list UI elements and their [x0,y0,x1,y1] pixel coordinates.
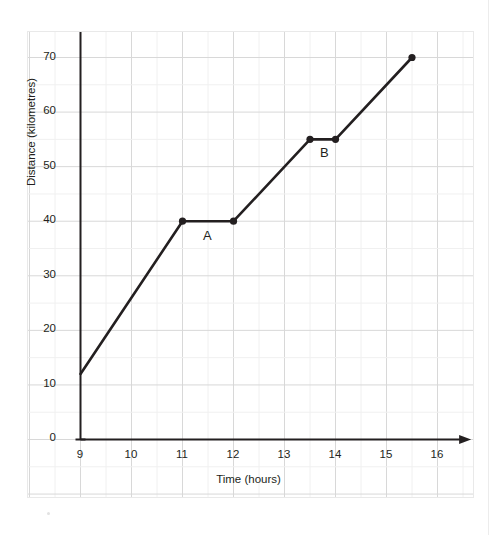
y-tick-label-30: 30 [36,268,56,280]
x-tick-label-16: 16 [425,448,449,460]
x-tick-label-14: 14 [323,448,347,460]
page-edge-divider [488,0,489,535]
page-speck-artifact [47,512,50,515]
x-tick-label-9: 9 [68,448,92,460]
annotation-label-b: B [320,145,329,160]
x-tick-label-12: 12 [221,448,245,460]
x-tick-label-11: 11 [170,448,194,460]
y-axis-title: Distance (kilometres) [25,56,37,186]
chart-plot-area [28,32,473,497]
y-tick-label-20: 20 [36,322,56,334]
y-tick-label-70: 70 [36,50,56,62]
x-tick-label-15: 15 [374,448,398,460]
y-tick-label-60: 60 [36,104,56,116]
y-tick-label-40: 40 [36,213,56,225]
x-tick-label-10: 10 [119,448,143,460]
annotation-label-a: A [203,228,212,243]
y-tick-label-50: 50 [36,159,56,171]
x-tick-label-13: 13 [272,448,296,460]
chart-plot-frame [27,31,474,498]
y-tick-label-0: 0 [36,431,56,443]
y-tick-label-10: 10 [36,377,56,389]
x-axis-title: Time (hours) [0,473,497,485]
page-canvas: 70 60 50 40 30 20 10 0 9 10 11 12 13 14 … [0,0,497,535]
